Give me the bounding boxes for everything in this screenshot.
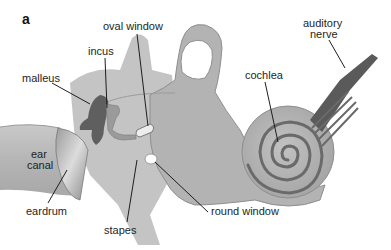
label-cochlea: cochlea bbox=[245, 70, 283, 81]
label-malleus: malleus bbox=[22, 73, 60, 84]
label-oval-window: oval window bbox=[103, 21, 163, 32]
label-auditory-nerve-2: nerve bbox=[310, 29, 338, 40]
label-stapes: stapes bbox=[104, 225, 136, 236]
label-round-window: round window bbox=[211, 206, 279, 217]
panel-letter: a bbox=[22, 11, 30, 27]
label-incus: incus bbox=[88, 46, 114, 57]
label-eardrum: eardrum bbox=[26, 206, 67, 217]
label-ear-canal-2: canal bbox=[27, 160, 53, 171]
